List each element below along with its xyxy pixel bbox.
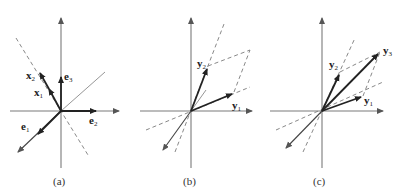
- panel-c: y2 y1 y3 (c): [270, 18, 393, 188]
- vector-figure: e3 e2 e1 x1 x2 (a) y2 y1 (b): [0, 0, 403, 196]
- e1-vector: [38, 111, 61, 134]
- panel-b: y2 y1 (b): [140, 18, 252, 188]
- label-y2: y2: [197, 57, 207, 71]
- diagram-canvas: e3 e2 e1 x1 x2 (a) y2 y1 (b): [0, 0, 403, 196]
- x2-vector: [40, 73, 49, 89]
- label-e3: e3: [64, 70, 73, 84]
- caption-c: (c): [313, 175, 326, 188]
- lower-diagonal-arrow: [286, 111, 322, 148]
- parallelogram-edge-right: [234, 50, 250, 92]
- label-y3: y3: [383, 44, 393, 58]
- panel-a: e3 e2 e1 x1 x2 (a): [10, 18, 119, 188]
- label-y1: y1: [364, 94, 374, 108]
- caption-a: (a): [53, 175, 66, 188]
- label-x2: x2: [26, 69, 36, 83]
- label-x1: x1: [34, 86, 44, 100]
- x1-vector: [49, 89, 61, 111]
- label-y1: y1: [232, 99, 242, 113]
- parallelogram-edge-right: [363, 52, 380, 96]
- parallelogram-edge-top: [340, 52, 380, 72]
- parallelogram-edge-top: [208, 50, 250, 66]
- label-y2: y2: [329, 58, 339, 72]
- label-e1: e1: [21, 120, 30, 134]
- dashed-line-y1: [276, 82, 383, 130]
- lower-diagonal-arrow: [163, 111, 191, 150]
- label-e2: e2: [89, 114, 98, 128]
- caption-b: (b): [183, 175, 196, 188]
